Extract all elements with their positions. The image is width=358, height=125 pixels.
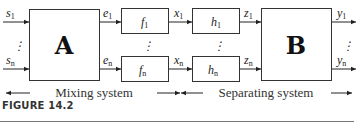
block-b-label: B	[286, 31, 306, 60]
label-x1: x1	[173, 6, 183, 21]
label-xn: xn	[173, 53, 183, 68]
dots-f: ⋮	[142, 39, 154, 53]
label-sn: sn	[6, 53, 15, 68]
label-e1: e1	[103, 6, 112, 21]
label-z1: z1	[243, 6, 253, 21]
dots-inputs: ⋮	[13, 39, 25, 53]
separating-system-label: Separating system	[219, 85, 314, 100]
dots-outputs: ⋮	[342, 39, 354, 53]
figure-caption: FIGURE 14.2	[2, 100, 74, 111]
block-a-label: A	[54, 31, 74, 60]
label-y1: y1	[336, 6, 346, 21]
label-zn: zn	[243, 53, 253, 68]
label-en: en	[103, 53, 112, 68]
caption-rule	[0, 121, 354, 122]
label-s1: s1	[6, 6, 15, 21]
mixing-system-label: Mixing system	[55, 85, 133, 100]
dots-h: ⋮	[213, 39, 225, 53]
label-yn: yn	[336, 53, 346, 68]
